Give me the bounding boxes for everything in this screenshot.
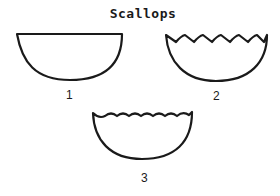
figure-label-1: 1: [66, 88, 73, 102]
shape-1-plain-bowl: [17, 34, 122, 80]
figure-label-3: 3: [141, 171, 148, 185]
shape-2-pointed-scallop-bowl: [166, 35, 267, 81]
scallops-diagram: [0, 0, 280, 196]
shape-3-rounded-scallop-bowl: [93, 112, 192, 159]
figure-label-2: 2: [213, 89, 220, 103]
